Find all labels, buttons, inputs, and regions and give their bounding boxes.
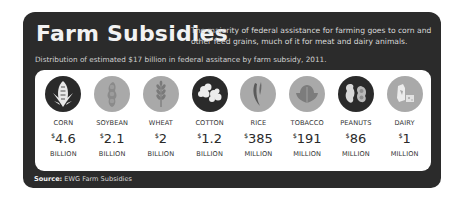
item-unit: MILLION: [293, 150, 321, 158]
subsidy-item-dairy: DAIRY $1 MILLION: [380, 76, 429, 158]
subsidy-list: CORN $4.6 BILLION SOYBEAN $2.1 BILLION W…: [39, 76, 429, 158]
item-name: RICE: [251, 119, 267, 127]
dairy-icon: [387, 76, 423, 112]
subtitle-text: Distribution of estimated $17 billion in…: [35, 55, 327, 65]
item-name: TOBACCO: [291, 119, 324, 127]
peanut-icon: [338, 76, 374, 112]
item-unit: BILLION: [196, 150, 223, 158]
item-unit: BILLION: [148, 150, 175, 158]
item-unit: MILLION: [391, 150, 419, 158]
subsidy-item-wheat: WHEAT $2 BILLION: [137, 76, 186, 158]
soybean-icon: [94, 76, 130, 112]
item-name: WHEAT: [149, 119, 173, 127]
item-amount: $4.6: [51, 129, 76, 146]
item-name: PEANUTS: [340, 119, 371, 127]
tobacco-icon: [289, 76, 325, 112]
subsidy-item-soybean: SOYBEAN $2.1 BILLION: [88, 76, 137, 158]
item-amount: $86: [346, 129, 367, 146]
item-amount: $385: [244, 129, 273, 146]
cotton-icon: [192, 76, 228, 112]
item-unit: BILLION: [50, 150, 77, 158]
subsidy-item-tobacco: TOBACCO $191 MILLION: [283, 76, 332, 158]
source-note: Source: EWG Farm Subsidies: [34, 175, 132, 184]
item-amount: $191: [293, 129, 322, 146]
item-unit: MILLION: [342, 150, 370, 158]
infographic-card: Farm Subsidies The majority of federal a…: [23, 12, 441, 188]
item-amount: $1: [398, 129, 410, 146]
wheat-icon: [143, 76, 179, 112]
subsidy-item-cotton: COTTON $1.2 BILLION: [185, 76, 234, 158]
subsidy-item-rice: RICE $385 MILLION: [234, 76, 283, 158]
subsidy-item-corn: CORN $4.6 BILLION: [39, 76, 88, 158]
item-name: DAIRY: [395, 119, 415, 127]
corn-icon: [45, 76, 81, 112]
item-name: CORN: [54, 119, 74, 127]
rice-icon: [240, 76, 276, 112]
subsidy-panel: CORN $4.6 BILLION SOYBEAN $2.1 BILLION W…: [35, 70, 431, 171]
item-unit: MILLION: [245, 150, 273, 158]
subsidy-item-peanuts: PEANUTS $86 MILLION: [332, 76, 381, 158]
item-amount: $2: [155, 129, 167, 146]
item-amount: $2.1: [100, 129, 125, 146]
item-unit: BILLION: [99, 150, 126, 158]
item-amount: $1.2: [197, 129, 222, 146]
item-name: SOYBEAN: [96, 119, 128, 127]
description-text: The majority of federal assistance for f…: [191, 25, 439, 47]
item-name: COTTON: [195, 119, 223, 127]
